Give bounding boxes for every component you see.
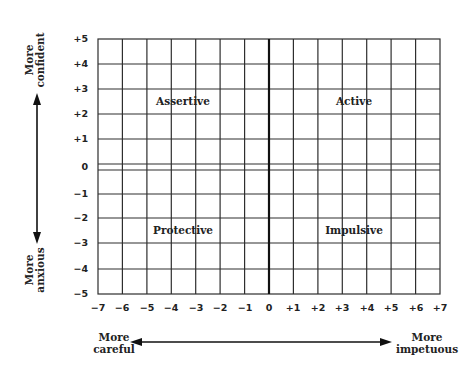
y-tick-zero: 0 [60, 162, 88, 172]
x-axis-right-label-line1: More [392, 331, 462, 343]
x-tick-minus2: −2 [208, 303, 232, 313]
x-tick-plus3: +3 [330, 303, 354, 313]
quadrant-label-impulsive: Impulsive [314, 224, 394, 236]
x-axis-right-label-line2: impetuous [392, 343, 462, 355]
x-tick-zero: 0 [257, 303, 281, 313]
x-axis-left-label-line2: careful [86, 343, 142, 355]
x-axis-left-label: More careful [86, 331, 142, 355]
y-axis-bottom-label-line2: anxious [35, 240, 46, 300]
y-axis-top-label-line2: confident [35, 30, 46, 90]
x-tick-minus6: −6 [110, 303, 134, 313]
x-tick-minus5: −5 [135, 303, 159, 313]
y-tick-plus3: +3 [60, 84, 88, 94]
x-tick-plus4: +4 [355, 303, 379, 313]
quadrant-label-assertive: Assertive [143, 95, 223, 107]
x-tick-minus4: −4 [159, 303, 183, 313]
y-tick-minus1: −1 [60, 189, 88, 199]
y-tick-minus4: −4 [60, 264, 88, 274]
x-tick-minus3: −3 [184, 303, 208, 313]
y-axis-bottom-label: More anxious [24, 240, 48, 300]
x-tick-plus1: +1 [281, 303, 305, 313]
x-tick-plus6: +6 [404, 303, 428, 313]
x-axis-right-label: More impetuous [392, 331, 462, 355]
x-tick-minus7: −7 [86, 303, 110, 313]
y-tick-plus4: +4 [60, 59, 88, 69]
y-tick-plus2: +2 [60, 109, 88, 119]
y-axis-top-label: More confident [24, 30, 48, 90]
y-tick-plus1: +1 [60, 134, 88, 144]
x-tick-plus2: +2 [306, 303, 330, 313]
quadrant-label-protective: Protective [143, 224, 223, 236]
y-tick-minus3: −3 [60, 238, 88, 248]
x-tick-minus1: −1 [233, 303, 257, 313]
y-tick-minus5: −5 [60, 289, 88, 299]
x-tick-plus7: +7 [428, 303, 452, 313]
y-tick-minus2: −2 [60, 213, 88, 223]
y-tick-plus5: +5 [60, 34, 88, 44]
quadrant-label-active: Active [314, 95, 394, 107]
x-axis-left-label-line1: More [86, 331, 142, 343]
x-tick-plus5: +5 [379, 303, 403, 313]
